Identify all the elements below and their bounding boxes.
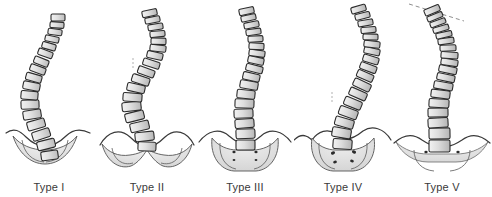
panel-type-4: Type IV xyxy=(294,0,392,197)
panel-label-type-2: Type II xyxy=(98,181,196,193)
panel-type-2: Type II xyxy=(98,0,196,197)
spine-diagram-type-3 xyxy=(196,0,294,175)
panel-type-1: Type I xyxy=(0,0,98,197)
spine-diagram-type-4 xyxy=(294,0,392,175)
panel-type-5: Type V xyxy=(392,0,492,197)
panel-label-type-1: Type I xyxy=(0,181,98,193)
spine-diagram-type-5 xyxy=(392,0,492,175)
spine-diagram-type-1 xyxy=(0,0,98,175)
vertebral-column-type-2 xyxy=(122,8,167,151)
panel-label-type-4: Type IV xyxy=(294,181,392,193)
panel-label-type-5: Type V xyxy=(392,181,492,193)
vertebral-column-type-5 xyxy=(423,4,458,152)
panel-label-type-3: Type III xyxy=(196,181,294,193)
vertebral-column-type-3 xyxy=(234,6,265,150)
spine-classification-figure: Type I xyxy=(0,0,492,197)
panel-type-3: Type III xyxy=(196,0,294,197)
spine-diagram-type-2 xyxy=(98,0,196,175)
